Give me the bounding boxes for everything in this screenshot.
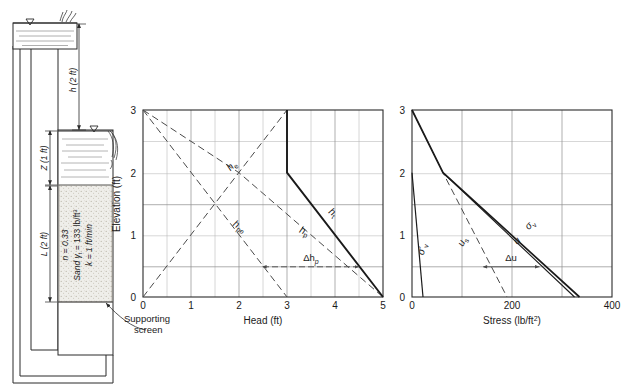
label-sigma-prime-v: σ'v bbox=[415, 242, 430, 256]
figure-svg: h (2 ft) Z (1 ft) L (2 ft) n = 0.33 Sand… bbox=[0, 0, 629, 392]
soil-permeability-label: k = 1 ft/min bbox=[84, 224, 94, 266]
stress-grid-major bbox=[412, 110, 612, 297]
figure-root: h (2 ft) Z (1 ft) L (2 ft) n = 0.33 Sand… bbox=[0, 0, 629, 392]
stress-diagram: σ'v us u σv Δu 0 200 400 0 bbox=[399, 105, 620, 326]
label-u-s: us bbox=[455, 234, 470, 248]
head-x-axis-title: Head (ft) bbox=[244, 315, 283, 326]
label-h-p: hp bbox=[297, 224, 311, 240]
label-delta-u: Δu bbox=[505, 252, 517, 263]
dimension-h-label: h (2 ft) bbox=[68, 68, 78, 93]
dimension-L-label: L (2 ft) bbox=[39, 232, 49, 257]
dimension-L: L (2 ft) bbox=[39, 186, 57, 302]
upper-reservoir bbox=[13, 19, 77, 49]
supporting-screen-label-line1: Supporting bbox=[124, 313, 170, 324]
label-sigma-v: σv bbox=[522, 217, 538, 233]
stress-ytick-1: 1 bbox=[399, 230, 405, 241]
label-h-pe: hpe bbox=[230, 218, 249, 237]
stress-curve-labels: σ'v us u σv bbox=[415, 217, 538, 257]
head-diagram: he hpe hp ht Δhp 0 1 2 3 4 5 bbox=[111, 105, 386, 326]
stress-x-axis-title: Stress (lb/ft2) bbox=[483, 315, 541, 327]
head-ytick-3: 3 bbox=[130, 105, 136, 116]
stress-xtick-200: 200 bbox=[504, 300, 521, 311]
head-xtick-1: 1 bbox=[188, 300, 194, 311]
head-y-ticks: 0 1 2 3 bbox=[130, 105, 136, 303]
dimension-Z-label: Z (1 ft) bbox=[39, 145, 49, 171]
apparatus-assembly: h (2 ft) Z (1 ft) L (2 ft) n = 0.33 Sand… bbox=[13, 10, 170, 383]
soil-sand-word: Sand bbox=[72, 261, 82, 281]
soil-gamma-value: = 133 lb/ft bbox=[72, 212, 82, 253]
head-xtick-5: 5 bbox=[380, 300, 386, 311]
supporting-screen-label-line2: screen bbox=[134, 324, 163, 335]
head-xtick-0: 0 bbox=[140, 300, 146, 311]
head-x-ticks: 0 1 2 3 4 5 bbox=[140, 300, 386, 311]
dimension-Z: Z (1 ft) bbox=[39, 131, 57, 185]
stress-x-ticks: 0 200 400 bbox=[409, 300, 621, 311]
stress-ytick-0: 0 bbox=[399, 292, 405, 303]
overflow-spout-icon bbox=[60, 10, 76, 22]
head-grid bbox=[143, 110, 383, 297]
head-ytick-0: 0 bbox=[130, 292, 136, 303]
head-ytick-1: 1 bbox=[130, 230, 136, 241]
head-xtick-4: 4 bbox=[332, 300, 338, 311]
stress-xtick-400: 400 bbox=[604, 300, 621, 311]
stress-ytick-3: 3 bbox=[399, 105, 405, 116]
series-sigma-v bbox=[412, 110, 580, 297]
stress-ytick-2: 2 bbox=[399, 168, 405, 179]
head-xtick-2: 2 bbox=[236, 300, 242, 311]
supporting-screen-callout: Supporting screen bbox=[106, 303, 170, 335]
label-h-t: ht bbox=[326, 206, 340, 221]
soil-porosity-label: n = 0.33 bbox=[60, 229, 70, 260]
head-curve-labels: he hpe hp ht bbox=[224, 158, 339, 240]
stress-xtick-0: 0 bbox=[409, 300, 415, 311]
head-xtick-3: 3 bbox=[284, 300, 290, 311]
series-u bbox=[443, 173, 575, 297]
head-ytick-2: 2 bbox=[130, 168, 136, 179]
annotation-delta-u: Δu bbox=[484, 252, 540, 267]
head-y-axis-title: Elevation (ft) bbox=[111, 176, 122, 232]
series-sigma-prime-v bbox=[412, 173, 423, 297]
soil-unitweight-label: Sand γt = 133 lb/ft3 bbox=[72, 209, 83, 281]
standpipe bbox=[31, 49, 58, 350]
stress-y-ticks: 0 1 2 3 bbox=[399, 105, 405, 303]
